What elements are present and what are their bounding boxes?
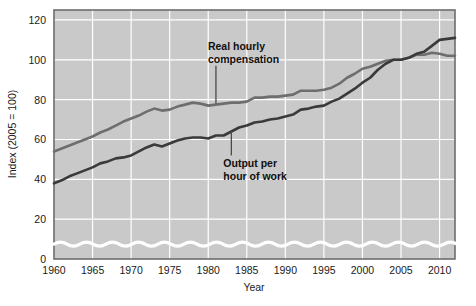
x-tick-label: 2005 bbox=[389, 264, 413, 276]
y-tick-label: 20 bbox=[34, 213, 46, 225]
x-tick-label: 1970 bbox=[119, 264, 143, 276]
y-tick-label: 80 bbox=[34, 94, 46, 106]
y-tick-label: 120 bbox=[28, 14, 46, 26]
x-tick-label: 2010 bbox=[428, 264, 452, 276]
y-axis-tick-labels: 020406080100120 bbox=[28, 14, 46, 265]
annotation-real-hourly-compensation-line2: compensation bbox=[208, 53, 279, 65]
chart-figure: 020406080100120 196019651970197519801985… bbox=[0, 0, 476, 306]
x-tick-label: 1985 bbox=[235, 264, 259, 276]
x-tick-label: 1990 bbox=[274, 264, 298, 276]
x-tick-label: 1960 bbox=[42, 264, 66, 276]
x-axis-title: Year bbox=[243, 281, 265, 293]
x-tick-label: 2000 bbox=[351, 264, 375, 276]
y-axis-title: Index (2005 = 100) bbox=[6, 90, 18, 178]
y-tick-label: 100 bbox=[28, 54, 46, 66]
x-tick-label: 1975 bbox=[158, 264, 182, 276]
x-tick-label: 1980 bbox=[197, 264, 221, 276]
y-tick-label: 60 bbox=[34, 133, 46, 145]
annotation-output-per-hour-of-work-line1: Output per bbox=[223, 157, 277, 169]
x-tick-label: 1965 bbox=[81, 264, 105, 276]
x-axis-tick-labels: 1960196519701975198019851990199520002005… bbox=[42, 264, 451, 276]
x-tick-label: 1995 bbox=[312, 264, 336, 276]
line-chart: 020406080100120 196019651970197519801985… bbox=[0, 0, 476, 306]
annotation-real-hourly-compensation-line1: Real hourly bbox=[208, 40, 265, 52]
annotation-output-per-hour-of-work-line2: hour of work bbox=[223, 170, 287, 182]
y-tick-label: 40 bbox=[34, 173, 46, 185]
